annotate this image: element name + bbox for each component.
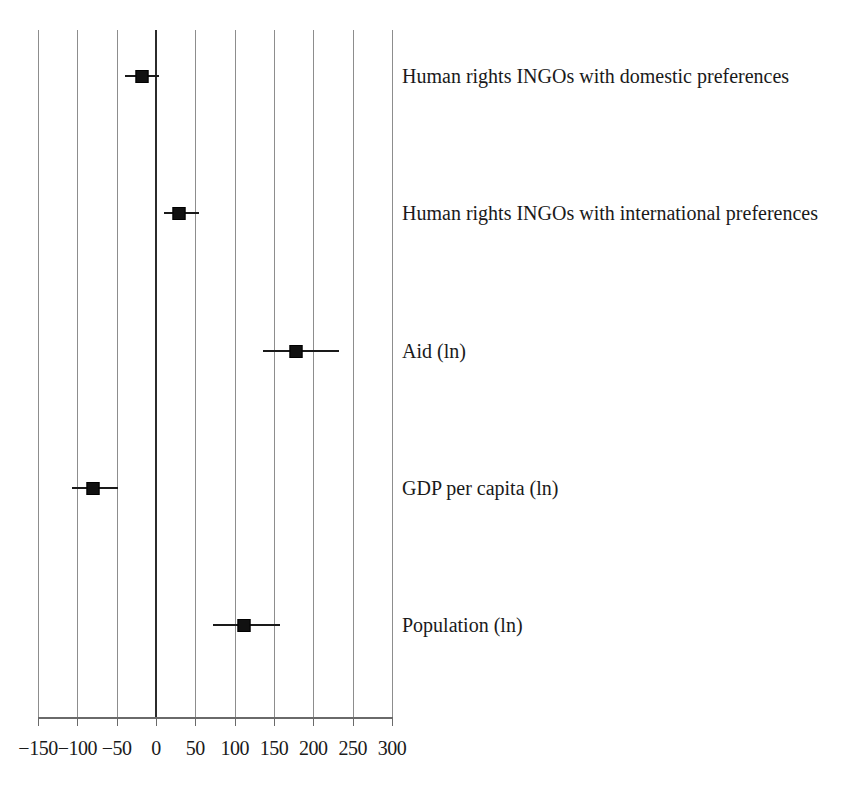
- tick-0: [156, 719, 157, 726]
- gridline-50: [195, 30, 196, 717]
- tick-250: [353, 719, 354, 726]
- tick-150: [274, 719, 275, 726]
- point-estimate-marker: [172, 207, 185, 220]
- tick-label--150: −150: [18, 736, 57, 760]
- coefficient-plot-figure: −150−100−50050100150200250300 Human righ…: [0, 0, 855, 794]
- tick-300: [392, 719, 393, 726]
- variable-label: Aid (ln): [402, 339, 466, 363]
- point-estimate-marker: [290, 345, 303, 358]
- gridline--150: [38, 30, 39, 717]
- gridline-250: [353, 30, 354, 717]
- tick-label--100: −100: [58, 736, 97, 760]
- zero-reference-line: [155, 30, 157, 717]
- tick-100: [235, 719, 236, 726]
- variable-label: Human rights INGOs with domestic prefere…: [402, 64, 789, 88]
- point-estimate-marker: [135, 70, 148, 83]
- tick-label-200: 200: [299, 736, 328, 760]
- tick-50: [195, 719, 196, 726]
- gridline--50: [117, 30, 118, 717]
- tick-200: [313, 719, 314, 726]
- gridline-100: [235, 30, 236, 717]
- tick-label-250: 250: [338, 736, 367, 760]
- gridline-150: [274, 30, 275, 717]
- tick-label-100: 100: [220, 736, 249, 760]
- x-axis-line: [38, 717, 393, 719]
- tick-label-50: 50: [186, 736, 205, 760]
- gridline-300: [392, 30, 393, 717]
- plot-area: [38, 30, 392, 717]
- variable-label: Human rights INGOs with international pr…: [402, 201, 818, 225]
- variable-label: GDP per capita (ln): [402, 476, 558, 500]
- gridline-200: [313, 30, 314, 717]
- point-estimate-marker: [238, 619, 251, 632]
- point-estimate-marker: [87, 482, 100, 495]
- gridline--100: [77, 30, 78, 717]
- tick--150: [38, 719, 39, 726]
- variable-label: Population (ln): [402, 613, 523, 637]
- tick-label-0: 0: [151, 736, 161, 760]
- tick-label-300: 300: [378, 736, 407, 760]
- tick-label--50: −50: [102, 736, 132, 760]
- tick--100: [77, 719, 78, 726]
- tick-label-150: 150: [260, 736, 289, 760]
- tick--50: [117, 719, 118, 726]
